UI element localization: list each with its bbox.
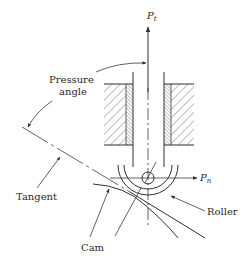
pressure-angle-arc	[96, 63, 146, 72]
cam-leader	[90, 189, 109, 237]
pressure-angle-label: Pressure angle	[49, 74, 97, 97]
cam-label: Cam	[81, 242, 105, 253]
normal-line	[115, 188, 141, 236]
roller-label: Roller	[207, 206, 238, 217]
roller-leader	[171, 196, 205, 211]
tangential-force-label: Pt	[146, 10, 157, 23]
tangent-leader	[37, 157, 60, 188]
guide-housing-right	[164, 84, 194, 145]
normal-force-label: Pn	[199, 172, 212, 185]
guide-housing-left	[104, 84, 133, 145]
cam-follower-diagram: Pt Pn Pressure angle Tangent Cam Roller	[0, 0, 249, 261]
tangent-label: Tangent	[16, 191, 57, 202]
pressure-angle-arc-lower	[28, 101, 52, 127]
tangent-line-lower	[130, 192, 205, 238]
